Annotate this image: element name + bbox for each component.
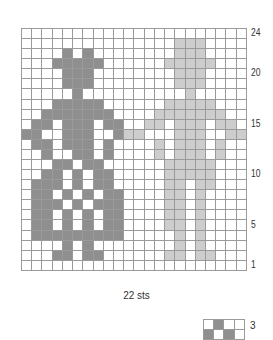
chart-cell [94,231,104,241]
chart-cell [186,150,196,160]
chart-cell [114,180,124,190]
chart-cell [114,110,124,120]
row-label-20: 20 [251,67,260,78]
chart-cell [134,120,144,130]
chart-cell [237,130,247,140]
chart-cell [32,241,42,251]
chart-cell [145,190,155,200]
chart-cell [155,200,165,210]
chart-cell [114,59,124,69]
chart-cell [63,130,73,140]
chart-cell [186,241,196,251]
chart-cell [155,79,165,89]
chart-cell [186,110,196,120]
chart-cell [32,120,42,130]
chart-cell [73,170,83,180]
chart-cell [22,140,32,150]
chart-cell [104,210,114,220]
chart-cell [83,150,93,160]
chart-cell [226,150,236,160]
chart-cell [83,251,93,261]
chart-cell [124,241,134,251]
chart-cell [175,150,185,160]
chart-cell [32,261,42,271]
chart-cell [155,140,165,150]
chart-cell [22,241,32,251]
chart-cell [73,150,83,160]
chart-cell [196,79,206,89]
chart-cell [196,210,206,220]
chart-cell [22,49,32,59]
chart-cell [63,160,73,170]
chart-cell [186,190,196,200]
chart-cell [114,220,124,230]
chart-cell [63,150,73,160]
chart-cell [53,231,63,241]
chart-cell [226,89,236,99]
chart-cell [53,110,63,120]
chart-cell [216,180,226,190]
chart-cell [104,170,114,180]
chart-cell [134,150,144,160]
chart-cell [165,29,175,39]
chart-cell [237,140,247,150]
chart-cell [226,79,236,89]
chart-cell [104,241,114,251]
chart-cell [206,89,216,99]
chart-cell [145,200,155,210]
chart-cell [94,49,104,59]
chart-cell [63,69,73,79]
chart-cell [165,190,175,200]
chart-cell [175,251,185,261]
chart-cell [237,69,247,79]
chart-cell [145,170,155,180]
chart-cell [237,210,247,220]
chart-cell [196,150,206,160]
chart-cell [83,89,93,99]
chart-cell [104,130,114,140]
chart-cell [226,180,236,190]
chart-cell [196,120,206,130]
chart-cell [165,59,175,69]
chart-cell [226,39,236,49]
chart-cell [165,49,175,59]
chart-cell [83,200,93,210]
chart-cell [134,180,144,190]
chart-cell [216,100,226,110]
chart-cell [94,39,104,49]
chart-cell [94,110,104,120]
chart-cell [42,160,52,170]
chart-cell [42,29,52,39]
chart-cell [145,261,155,271]
chart-cell [114,130,124,140]
chart-cell [124,120,134,130]
chart-cell [114,231,124,241]
chart-cell [165,140,175,150]
chart-cell [196,231,206,241]
chart-cell [53,261,63,271]
chart-cell [134,79,144,89]
chart-cell [237,180,247,190]
chart-cell [134,69,144,79]
chart-cell [226,190,236,200]
chart-cell [175,231,185,241]
chart-cell [63,200,73,210]
chart-cell [206,190,216,200]
chart-cell [124,210,134,220]
chart-cell [206,170,216,180]
chart-cell [237,190,247,200]
chart-cell [32,210,42,220]
chart-cell [104,190,114,200]
chart-cell [196,200,206,210]
chart-cell [237,49,247,59]
chart-cell [104,89,114,99]
chart-cell [114,120,124,130]
chart-cell [32,180,42,190]
chart-cell [22,59,32,69]
chart-cell [206,241,216,251]
chart-cell [124,231,134,241]
chart-cell [175,79,185,89]
chart-cell [165,261,175,271]
chart-cell [42,130,52,140]
chart-cell [237,150,247,160]
